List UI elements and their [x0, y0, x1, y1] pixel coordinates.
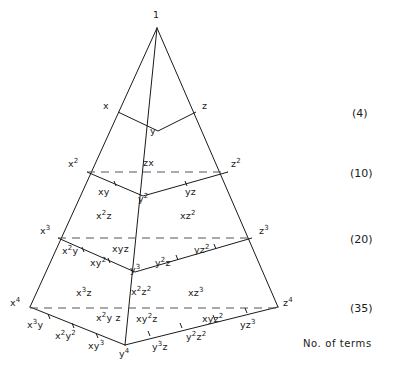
term-y2: y2	[138, 194, 148, 204]
term-xyz2: xyz2	[202, 314, 224, 324]
term-y4: y4	[119, 349, 129, 359]
term-xy2: xy2	[90, 258, 106, 268]
term-count-level-2: (10)	[350, 168, 373, 179]
term-xy3: xy3	[88, 341, 104, 351]
term-x2z2: x2z2	[131, 287, 151, 297]
term-xy2z: xy2z	[136, 314, 158, 324]
term-x: x	[103, 101, 109, 111]
term-yz3: yz3	[240, 320, 256, 330]
term-x4: x4	[10, 298, 20, 308]
term-1: 1	[153, 10, 159, 20]
term-x2: x2	[68, 159, 78, 169]
term-y3z: y3z	[152, 342, 168, 352]
figure-root: 1xzyx2zxz2xyy2yzx3x2zxz2z3x2yxy2xyzy3y2z…	[0, 0, 402, 379]
term-y2z2: y2z2	[186, 332, 206, 342]
term-x2y2: x2y2	[55, 331, 76, 341]
level-1-edges	[118, 112, 196, 131]
term-y: y	[150, 126, 156, 136]
term-count-level-4: (35)	[350, 303, 373, 314]
pyramid-outline	[30, 28, 278, 345]
term-z: z	[202, 101, 207, 111]
no-of-terms-caption: No. of terms	[303, 338, 372, 349]
edge-apex-to-z4	[157, 28, 278, 307]
term-x3z: x3z	[76, 288, 92, 298]
term-x3y: x3y	[27, 320, 43, 330]
term-xyz: xyz	[112, 244, 129, 254]
term-y3: y3	[130, 265, 140, 275]
term-xz2: xz2	[180, 211, 196, 221]
term-yz: yz	[185, 187, 196, 197]
term-x2z: x2z	[96, 211, 112, 221]
term-yz2: yz2	[194, 245, 210, 255]
term-zx: zx	[143, 158, 154, 168]
term-y2z: y2z	[155, 258, 171, 268]
term-x2yz: x2y z	[96, 313, 121, 323]
term-z4: z4	[283, 298, 293, 308]
term-x3: x3	[40, 226, 50, 236]
term-count-level-1: (4)	[352, 108, 368, 119]
tick-marks-level-2	[114, 181, 187, 186]
term-z2: z2	[231, 159, 241, 169]
term-xy: xy	[98, 187, 110, 197]
pyramid-diagram	[0, 0, 402, 379]
edge-apex-to-y4	[125, 28, 157, 345]
term-xz3: xz3	[188, 288, 204, 298]
term-count-level-3: (20)	[350, 234, 373, 245]
term-z3: z3	[259, 226, 269, 236]
term-x2y: x2y	[62, 246, 78, 256]
